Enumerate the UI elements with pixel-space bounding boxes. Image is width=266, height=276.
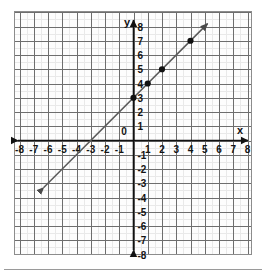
x-tick-label: 6 xyxy=(216,144,222,155)
graph-canvas: x y 0 -8-7-6-5-4-3-2-112345678 87654321-… xyxy=(0,0,266,276)
x-tick-label: 2 xyxy=(159,144,165,155)
y-tick-label: -6 xyxy=(138,221,147,232)
y-tick-label: 3 xyxy=(138,93,144,104)
x-tick-label: -2 xyxy=(101,144,110,155)
y-tick-label: -4 xyxy=(138,193,147,204)
x-tick-label: -8 xyxy=(15,144,24,155)
x-tick-label: 4 xyxy=(188,144,194,155)
x-tick-label: -1 xyxy=(115,144,124,155)
y-tick-label: -5 xyxy=(138,207,147,218)
y-tick-label: 2 xyxy=(138,107,144,118)
y-tick-label: 1 xyxy=(138,121,144,132)
y-tick-label: -1 xyxy=(138,150,147,161)
y-tick-label: -8 xyxy=(138,250,147,261)
x-tick-label: 5 xyxy=(202,144,208,155)
data-point xyxy=(145,80,151,86)
y-tick-label: 5 xyxy=(138,64,144,75)
x-tick-label: -3 xyxy=(86,144,95,155)
y-tick-label: -2 xyxy=(138,164,147,175)
coordinate-plane-figure: x y 0 -8-7-6-5-4-3-2-112345678 87654321-… xyxy=(0,0,266,276)
origin-label: 0 xyxy=(121,126,127,137)
y-tick-label: 8 xyxy=(138,22,144,33)
x-tick-label: 3 xyxy=(173,144,179,155)
y-tick-label: -7 xyxy=(138,235,147,246)
y-axis-label: y xyxy=(124,16,131,28)
x-tick-label: 7 xyxy=(230,144,236,155)
data-point xyxy=(130,95,136,101)
y-tick-label: 6 xyxy=(138,50,144,61)
x-tick-label: -4 xyxy=(72,144,81,155)
x-tick-label: -7 xyxy=(29,144,38,155)
y-tick-label: -3 xyxy=(138,178,147,189)
x-tick-label: -6 xyxy=(44,144,53,155)
x-tick-label: 8 xyxy=(245,144,251,155)
x-axis-label: x xyxy=(237,124,244,136)
y-tick-label: 7 xyxy=(138,36,144,47)
data-point xyxy=(187,38,193,44)
x-tick-label: -5 xyxy=(58,144,67,155)
data-point xyxy=(159,66,165,72)
